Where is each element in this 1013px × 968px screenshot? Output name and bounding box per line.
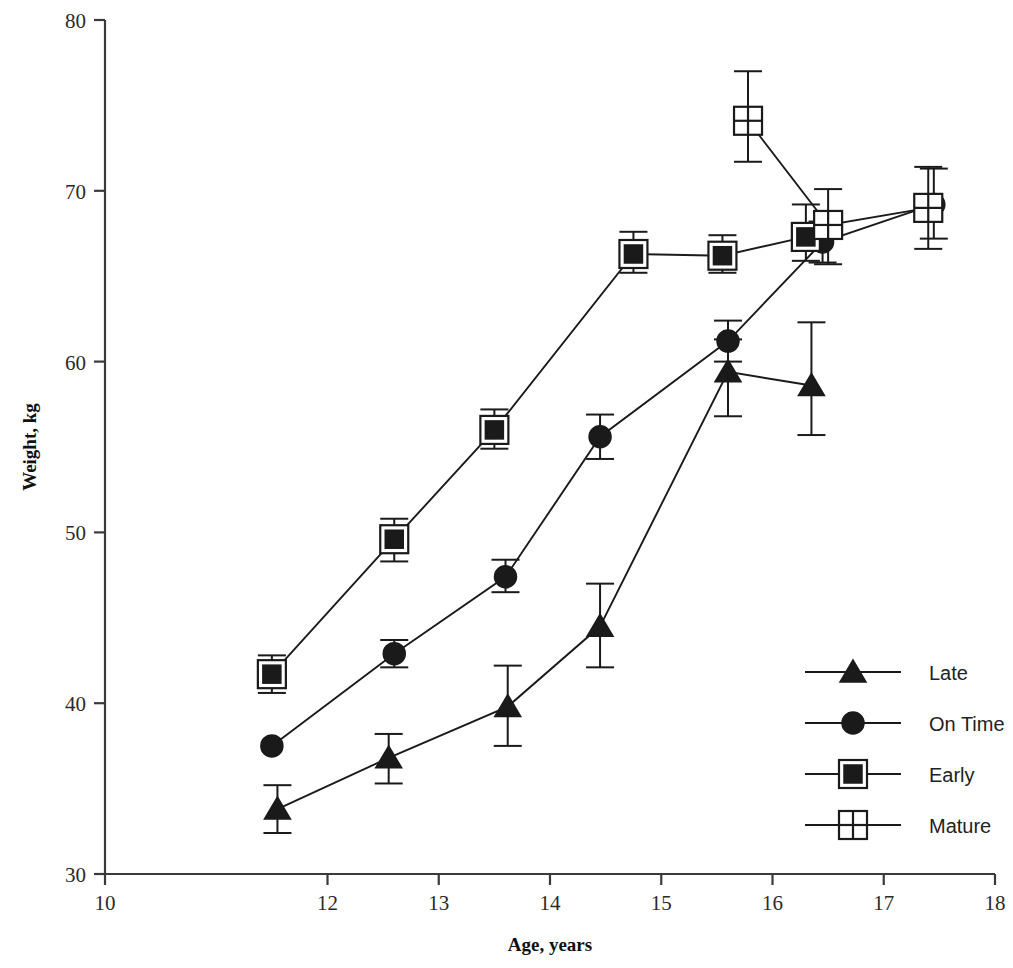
x-tick-label-17: 17: [873, 891, 894, 915]
legend-label: Mature: [929, 815, 991, 837]
data-point: [717, 330, 739, 352]
legend-label: On Time: [929, 713, 1005, 735]
legend-label: Early: [929, 764, 975, 786]
x-tick-label-12: 12: [317, 891, 338, 915]
data-point: [495, 566, 517, 588]
y-tick-label-30: 30: [65, 863, 86, 887]
data-point: [624, 245, 642, 263]
x-tick-label-15: 15: [651, 891, 672, 915]
y-tick-label-50: 50: [65, 521, 86, 545]
legend-label: Late: [929, 662, 968, 684]
y-tick-label-70: 70: [65, 180, 86, 204]
x-tick-label-18: 18: [985, 891, 1006, 915]
y-tick-label-40: 40: [65, 692, 86, 716]
data-point: [485, 421, 503, 439]
x-tick-label-10: 10: [95, 891, 116, 915]
data-point: [713, 247, 731, 265]
data-point: [263, 665, 281, 683]
x-tick-label-14: 14: [540, 891, 562, 915]
y-tick-label-60: 60: [65, 351, 86, 375]
chart-figure: 3040506070801012131415161718Age, yearsWe…: [0, 0, 1013, 968]
data-point: [797, 228, 815, 246]
data-point: [261, 735, 283, 757]
y-axis-title: Weight, kg: [19, 403, 40, 491]
x-tick-label-16: 16: [762, 891, 783, 915]
chart-svg: 3040506070801012131415161718Age, yearsWe…: [0, 0, 1013, 968]
y-tick-label-80: 80: [65, 9, 86, 33]
data-point: [383, 643, 405, 665]
data-point: [589, 426, 611, 448]
x-tick-label-13: 13: [428, 891, 449, 915]
x-axis-title: Age, years: [508, 934, 592, 955]
data-point: [385, 530, 403, 548]
legend-marker: [842, 712, 864, 734]
legend-marker: [844, 765, 862, 783]
